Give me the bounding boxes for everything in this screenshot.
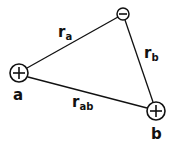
- edge-ra: [27, 17, 118, 68]
- positive-charge-a: [10, 64, 28, 82]
- label-ra: ra: [58, 23, 72, 42]
- charge-triangle-diagram: ra rb rab a b: [0, 0, 174, 145]
- label-rab: rab: [72, 93, 93, 112]
- label-rb: rb: [144, 44, 159, 63]
- label-b: b: [151, 125, 162, 143]
- negative-charge: [117, 8, 129, 20]
- label-a: a: [13, 86, 23, 104]
- positive-charge-b: [147, 102, 165, 120]
